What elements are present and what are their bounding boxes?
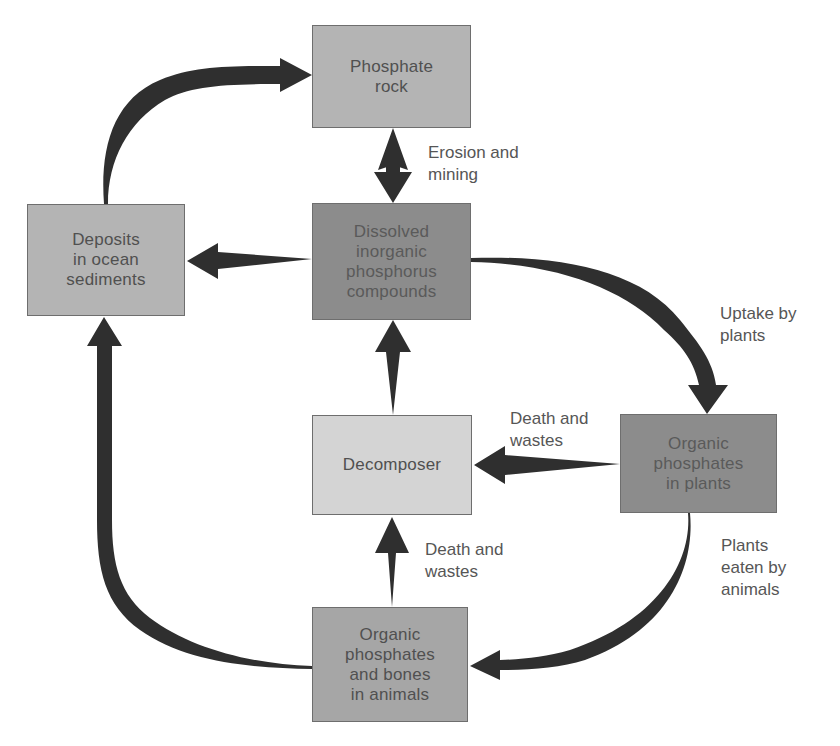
arrow-deposits-to-rock <box>103 58 312 204</box>
node-deposits: Deposits in ocean sediments <box>27 204 185 316</box>
edge-label-death-animals: Death and wastes <box>425 539 503 583</box>
node-animals-label: Organic phosphates and bones in animals <box>345 625 435 705</box>
node-animals: Organic phosphates and bones in animals <box>312 607 468 722</box>
node-phosphate-rock: Phosphate rock <box>312 25 471 128</box>
node-plants-label: Organic phosphates in plants <box>654 434 744 494</box>
edge-label-eaten: Plants eaten by animals <box>721 535 786 601</box>
arrow-animals-to-deposits <box>87 317 312 669</box>
node-phosphate-rock-label: Phosphate rock <box>350 57 433 97</box>
edge-label-death-plants: Death and wastes <box>510 408 588 452</box>
arrow-decomposer-to-dissolved <box>375 320 411 415</box>
node-plants: Organic phosphates in plants <box>620 414 777 513</box>
edge-label-uptake: Uptake by plants <box>720 303 797 347</box>
node-dissolved: Dissolved inorganic phosphorus compounds <box>312 203 471 320</box>
node-deposits-label: Deposits in ocean sediments <box>66 230 145 290</box>
node-decomposer-label: Decomposer <box>343 455 441 475</box>
arrow-animals-to-decomposer <box>375 517 409 607</box>
arrow-dissolved-to-plants <box>471 258 728 414</box>
node-dissolved-label: Dissolved inorganic phosphorus compounds <box>346 222 437 302</box>
arrow-dissolved-to-deposits <box>187 243 312 279</box>
node-decomposer: Decomposer <box>312 415 472 515</box>
arrow-erosion-head <box>374 150 412 203</box>
edge-label-erosion: Erosion and mining <box>428 142 519 186</box>
phosphorus-cycle-diagram: Phosphate rock Deposits in ocean sedimen… <box>0 0 840 746</box>
